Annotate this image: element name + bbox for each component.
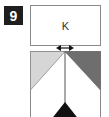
- folded-square-panel: [30, 51, 101, 117]
- step-number: 9: [10, 9, 18, 23]
- label-box-k: K: [30, 5, 101, 46]
- fold-diagram: [30, 51, 101, 117]
- label-box-text: K: [62, 20, 69, 32]
- step-number-badge: 9: [4, 6, 23, 25]
